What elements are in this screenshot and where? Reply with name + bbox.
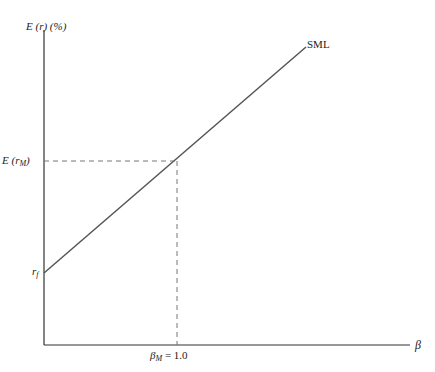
sml-label: SML (307, 39, 330, 50)
y-axis-label: E (r) (%) (26, 21, 66, 32)
rf-label: rf (32, 266, 39, 279)
sml-chart (0, 0, 435, 372)
beta-m-label: βM = 1.0 (150, 350, 188, 363)
sml-line (44, 47, 306, 273)
erm-label: E (rM) (2, 155, 30, 168)
x-axis-label: β (415, 339, 421, 351)
